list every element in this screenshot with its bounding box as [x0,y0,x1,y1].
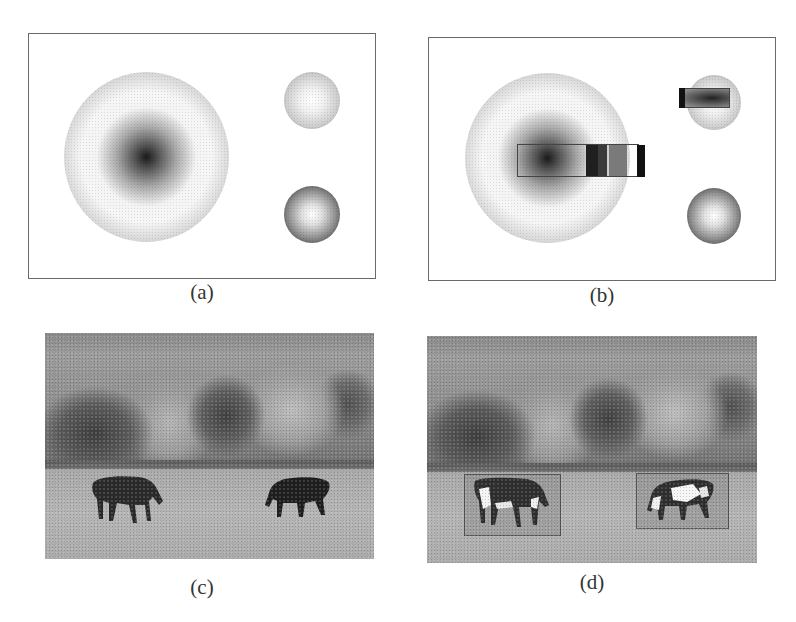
panel-a-synthetic-spheres [28,33,376,279]
caption-d: (d) [562,570,622,595]
panel-b-synthetic-spheres-perturbed [428,37,776,281]
small-sphere-bottom [284,186,340,243]
perturbation-region-large [517,144,639,177]
perturbation-region-small [679,88,730,108]
large-sphere [64,72,229,242]
perturbation-edge-small [679,88,685,108]
caption-b: (b) [572,283,632,308]
caption-c: (c) [172,575,232,600]
caption-a: (a) [172,280,232,305]
small-sphere-top [284,72,340,129]
small-sphere-bottom [687,188,741,244]
panel-d-horse-photo-perturbed [427,336,757,563]
perturbation-edge-large [637,145,645,177]
panel-c-horse-photo [45,333,374,559]
